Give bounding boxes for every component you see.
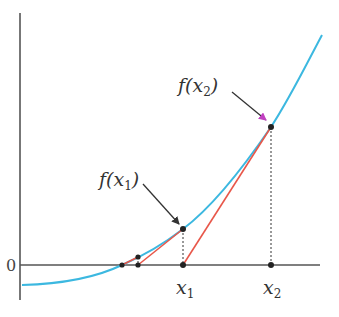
function-curve <box>22 35 322 285</box>
fx1-pointer-arrow <box>143 184 179 224</box>
point-fx3 <box>135 254 140 259</box>
fx2-label: f(x2) <box>176 74 218 99</box>
fx1-label: f(x1) <box>97 168 139 193</box>
point-fx1 <box>180 226 186 232</box>
tangent-at-x2 <box>183 127 271 265</box>
tangent-at-x1 <box>138 229 183 265</box>
point-x2 <box>268 262 274 268</box>
point-fx2 <box>268 124 274 130</box>
point-x1 <box>180 262 186 268</box>
x2-label: x2 <box>263 276 281 301</box>
point-root <box>119 262 124 267</box>
fx2-pointer-arrow <box>232 92 266 120</box>
point-x3 <box>135 262 140 267</box>
x1-label: x1 <box>176 276 194 301</box>
tangent-at-x3 <box>122 257 138 265</box>
origin-label: 0 <box>6 256 16 275</box>
newton-method-diagram: 0 f(x1) f(x2) x1 x2 <box>0 0 339 317</box>
